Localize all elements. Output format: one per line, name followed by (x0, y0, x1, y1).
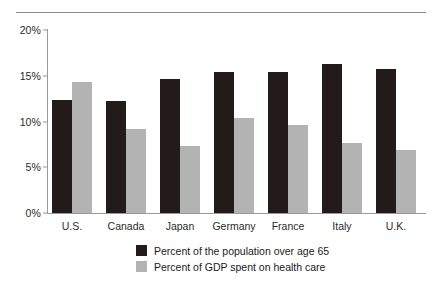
bar (288, 125, 308, 213)
x-axis-category-label: Canada (108, 220, 145, 232)
y-axis-tick-mark (43, 30, 47, 31)
bar (268, 72, 288, 213)
legend-color-swatch (136, 261, 147, 272)
y-axis-tick-label: 20% (20, 24, 41, 36)
chart-legend: Percent of the population over age 65Per… (136, 243, 329, 275)
bar-group: Germany (214, 30, 254, 213)
bar (126, 129, 146, 213)
legend-color-swatch (136, 245, 147, 256)
x-axis-category-label: Germany (212, 220, 255, 232)
bar (396, 150, 416, 213)
bar (160, 79, 180, 214)
y-axis-tick-mark (43, 75, 47, 76)
legend-label: Percent of the population over age 65 (154, 245, 329, 257)
y-axis-tick-label: 5% (26, 161, 41, 173)
x-axis-category-label: Japan (166, 220, 195, 232)
y-axis-tick-label: 10% (20, 116, 41, 128)
bar (52, 100, 72, 213)
bar-group: Japan (160, 30, 200, 213)
bar (72, 82, 92, 213)
bar (322, 64, 342, 213)
y-axis-tick-mark (43, 213, 47, 214)
x-axis-line (47, 213, 426, 214)
bar (376, 69, 396, 213)
legend-item: Percent of GDP spent on health care (136, 259, 329, 274)
bar-group: Italy (322, 30, 362, 213)
y-axis-tick-label: 0% (26, 207, 41, 219)
bar (106, 101, 126, 213)
y-axis-tick-label: 15% (20, 70, 41, 82)
bar-group: France (268, 30, 308, 213)
bar (234, 118, 254, 213)
plot-area: 0%5%10%15%20% U.S.CanadaJapanGermanyFran… (47, 30, 425, 213)
top-divider-rule (16, 12, 426, 13)
bar (180, 146, 200, 213)
y-axis-tick-mark (43, 121, 47, 122)
x-axis-category-label: U.K. (386, 220, 406, 232)
bar (214, 72, 234, 213)
bar-group: U.S. (52, 30, 92, 213)
legend-item: Percent of the population over age 65 (136, 243, 329, 258)
x-axis-category-label: Italy (332, 220, 351, 232)
chart-figure: 0%5%10%15%20% U.S.CanadaJapanGermanyFran… (0, 0, 441, 286)
bar-group: Canada (106, 30, 146, 213)
bar-group: U.K. (376, 30, 416, 213)
x-axis-category-label: U.S. (62, 220, 82, 232)
legend-label: Percent of GDP spent on health care (154, 261, 325, 273)
y-axis-tick-mark (43, 167, 47, 168)
x-axis-category-label: France (272, 220, 305, 232)
bar (342, 143, 362, 213)
